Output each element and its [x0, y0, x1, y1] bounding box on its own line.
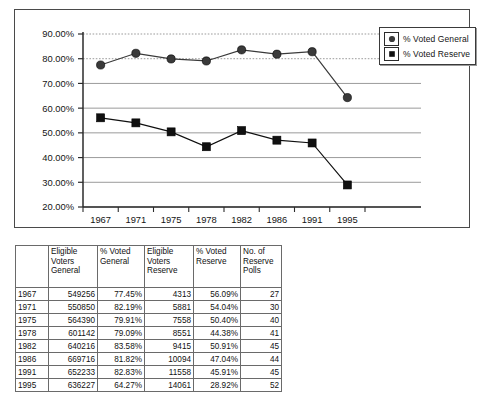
table-cell-no-of-reserve-polls: 45	[241, 366, 282, 379]
table-cell-pct-voted-reserve: 28.92%	[194, 379, 241, 392]
y-axis-tick-label: 50.00%	[42, 127, 74, 138]
table-header-eligible-voters-general: Eligible Voters General	[49, 246, 98, 288]
table-corner-header	[16, 246, 49, 288]
table-row: 196754925677.45%431356.09%27	[16, 288, 282, 301]
table-cell-eligible-voters-reserve: 5881	[145, 301, 194, 314]
table-cell-eligible-voters-general: 549256	[49, 288, 98, 301]
table-row: 198666971681.82%1009447.04%44	[16, 353, 282, 366]
table-header-no-of-reserve-polls: No. of Reserve Polls	[241, 246, 282, 288]
y-axis-tick-label: 60.00%	[42, 103, 74, 114]
data-point-marker[interactable]	[132, 119, 140, 127]
data-point-marker[interactable]	[202, 57, 210, 65]
y-axis-tick-label: 80.00%	[42, 53, 74, 64]
table-cell-no-of-reserve-polls: 41	[241, 327, 282, 340]
table-row: 197556439079.91%755850.40%40	[16, 314, 282, 327]
legend-item-reserve[interactable]: % Voted Reserve	[384, 46, 470, 61]
table-cell-eligible-voters-reserve: 7558	[145, 314, 194, 327]
x-axis-tick-label: 1971	[125, 214, 146, 225]
square-marker-icon	[384, 47, 399, 61]
table-cell-year: 1967	[16, 288, 49, 301]
data-point-marker[interactable]	[273, 50, 281, 58]
table-cell-eligible-voters-general: 669716	[49, 353, 98, 366]
table-cell-pct-voted-general: 83.58%	[98, 340, 145, 353]
chart-legend: % Voted General % Voted Reserve	[379, 27, 476, 65]
table-cell-year: 1991	[16, 366, 49, 379]
table-header-pct-voted-general: % Voted General	[98, 246, 145, 288]
table-cell-no-of-reserve-polls: 52	[241, 379, 282, 392]
table-row: 197860114279.09%855144.38%41	[16, 327, 282, 340]
table-cell-eligible-voters-reserve: 11558	[145, 366, 194, 379]
table-cell-no-of-reserve-polls: 30	[241, 301, 282, 314]
x-axis-tick-label: 1982	[231, 214, 252, 225]
table-cell-pct-voted-reserve: 47.04%	[194, 353, 241, 366]
y-axis-tick-label: 70.00%	[42, 78, 74, 89]
x-axis-tick-label: 1995	[337, 214, 358, 225]
data-point-marker[interactable]	[132, 49, 140, 57]
x-axis-tick-label: 1991	[302, 214, 323, 225]
table-cell-pct-voted-reserve: 50.40%	[194, 314, 241, 327]
table-cell-eligible-voters-reserve: 8551	[145, 327, 194, 340]
table-header: Eligible Voters General % Voted General …	[16, 246, 282, 288]
data-point-marker[interactable]	[238, 46, 246, 54]
table-cell-year: 1975	[16, 314, 49, 327]
table-cell-pct-voted-reserve: 56.09%	[194, 288, 241, 301]
table-cell-pct-voted-reserve: 45.91%	[194, 366, 241, 379]
table-cell-no-of-reserve-polls: 27	[241, 288, 282, 301]
table-cell-eligible-voters-reserve: 9415	[145, 340, 194, 353]
data-point-marker[interactable]	[97, 61, 105, 69]
voter-turnout-table: Eligible Voters General % Voted General …	[15, 245, 282, 392]
data-point-marker[interactable]	[308, 48, 316, 56]
y-axis-tick-label: 20.00%	[42, 201, 74, 212]
table-row: 198264021683.58%941550.91%45	[16, 340, 282, 353]
table-cell-pct-voted-general: 79.91%	[98, 314, 145, 327]
table-cell-eligible-voters-general: 601142	[49, 327, 98, 340]
series-line-reserve	[101, 118, 348, 185]
data-point-marker[interactable]	[167, 128, 175, 136]
circle-marker-icon	[384, 32, 399, 46]
table-cell-pct-voted-general: 82.83%	[98, 366, 145, 379]
data-point-marker[interactable]	[343, 93, 351, 101]
legend-item-general[interactable]: % Voted General	[384, 31, 470, 46]
table-cell-eligible-voters-reserve: 4313	[145, 288, 194, 301]
table-cell-pct-voted-general: 82.19%	[98, 301, 145, 314]
x-axis-tick-label: 1978	[196, 214, 217, 225]
table-cell-eligible-voters-reserve: 10094	[145, 353, 194, 366]
table-cell-eligible-voters-reserve: 14061	[145, 379, 194, 392]
table-cell-year: 1982	[16, 340, 49, 353]
chart-panel: 90.00%80.00%70.00%60.00%50.00%40.00%30.0…	[14, 9, 470, 228]
table-cell-pct-voted-general: 81.82%	[98, 353, 145, 366]
table-cell-pct-voted-reserve: 54.04%	[194, 301, 241, 314]
table-cell-eligible-voters-general: 652233	[49, 366, 98, 379]
table-cell-pct-voted-reserve: 50.91%	[194, 340, 241, 353]
data-point-marker[interactable]	[343, 181, 351, 189]
table-row: 199563622764.27%1406128.92%52	[16, 379, 282, 392]
legend-label-general: % Voted General	[403, 34, 469, 44]
data-table-container: Eligible Voters General % Voted General …	[15, 245, 251, 392]
legend-label-reserve: % Voted Reserve	[403, 49, 470, 59]
data-point-marker[interactable]	[308, 139, 316, 147]
table-cell-pct-voted-general: 64.27%	[98, 379, 145, 392]
table-body: 196754925677.45%431356.09%27197155085082…	[16, 288, 282, 392]
table-cell-eligible-voters-general: 636227	[49, 379, 98, 392]
table-cell-year: 1978	[16, 327, 49, 340]
table-cell-year: 1986	[16, 353, 49, 366]
table-row: 197155085082.19%588154.04%30	[16, 301, 282, 314]
table-cell-year: 1995	[16, 379, 49, 392]
table-cell-pct-voted-reserve: 44.38%	[194, 327, 241, 340]
table-cell-no-of-reserve-polls: 45	[241, 340, 282, 353]
y-axis-tick-label: 30.00%	[42, 177, 74, 188]
table-header-row: Eligible Voters General % Voted General …	[16, 246, 282, 288]
data-point-marker[interactable]	[273, 136, 281, 144]
table-row: 199165223382.83%1155845.91%45	[16, 366, 282, 379]
y-axis-tick-label: 90.00%	[42, 28, 74, 39]
data-point-marker[interactable]	[97, 114, 105, 122]
data-point-marker[interactable]	[167, 55, 175, 63]
table-cell-no-of-reserve-polls: 44	[241, 353, 282, 366]
data-point-marker[interactable]	[202, 143, 210, 151]
table-cell-pct-voted-general: 79.09%	[98, 327, 145, 340]
table-cell-eligible-voters-general: 564390	[49, 314, 98, 327]
table-cell-year: 1971	[16, 301, 49, 314]
table-cell-eligible-voters-general: 550850	[49, 301, 98, 314]
data-point-marker[interactable]	[238, 127, 246, 135]
table-header-pct-voted-reserve: % Voted Reserve	[194, 246, 241, 288]
